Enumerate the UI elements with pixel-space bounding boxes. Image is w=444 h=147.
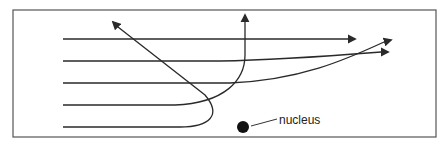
nucleus-label: nucleus bbox=[279, 113, 320, 127]
path-4-large-deflection bbox=[63, 15, 245, 105]
rutherford-scattering-diagram: nucleus bbox=[0, 0, 444, 147]
path-2-slight-deflection bbox=[63, 52, 388, 61]
path-5-backscatter bbox=[63, 22, 213, 127]
nucleus-leader-line bbox=[251, 119, 277, 126]
diagram-frame bbox=[13, 10, 436, 137]
nucleus-dot bbox=[237, 121, 249, 133]
particle-paths bbox=[63, 15, 391, 127]
